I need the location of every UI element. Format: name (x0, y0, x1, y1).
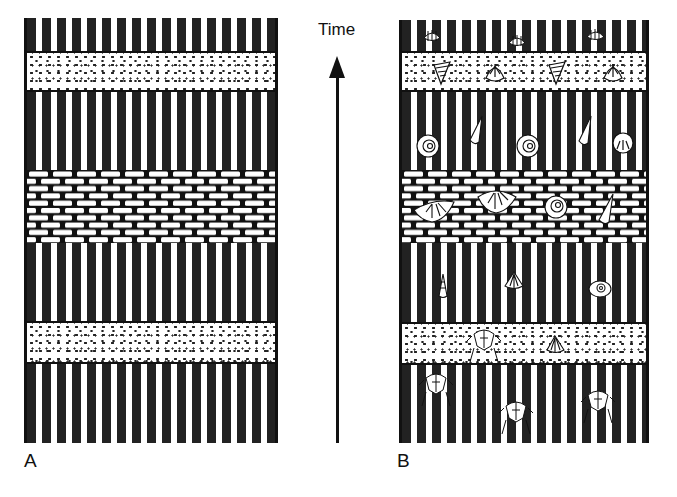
ammonite-fossil-limestone (545, 196, 567, 218)
gastropod-fossil-limestone (599, 194, 613, 224)
trilobite-fossil (467, 330, 501, 362)
time-label: Time (318, 20, 355, 40)
gastropod-fossil-small (439, 274, 447, 298)
sea-urchin-fossil (613, 133, 633, 153)
time-arrow-shaft (336, 75, 339, 443)
spiriferid-brachiopod-fossil (414, 191, 516, 222)
brachiopod-fossil (424, 29, 604, 46)
coiled-gastropod-fossil (589, 281, 611, 297)
brachiopod-fossil-small (505, 272, 523, 289)
column-a-label: A (24, 450, 37, 472)
column-b-label: B (397, 450, 410, 472)
brachiopod-fossil-sandstone (547, 336, 564, 353)
trilobite-fossil (419, 374, 615, 434)
